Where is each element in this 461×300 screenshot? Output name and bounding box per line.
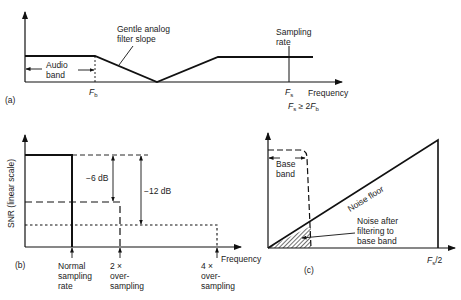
- audio-band-label-2: band: [46, 70, 65, 80]
- fb-label: Fb: [89, 87, 98, 98]
- sampling-condition: Fs ≥ 2Fb: [288, 101, 320, 112]
- audio-band-label-1: Audio: [46, 60, 68, 70]
- tick-2x-label-2: over-: [110, 271, 130, 281]
- delta-6db-label: −6 dB: [86, 173, 109, 183]
- filter-slope-label-2: filter slope: [117, 34, 156, 44]
- x-axis-label-b: Frequency: [221, 254, 262, 264]
- panel-c-tag: (c): [304, 265, 314, 275]
- noise-floor-label: Noise floor: [346, 184, 386, 214]
- panel-a-tag: (a): [5, 95, 16, 105]
- tick-normal-label-1: Normal: [58, 261, 86, 271]
- baseband-label-2: band: [276, 169, 295, 179]
- baseband-label-1: Base: [276, 159, 296, 169]
- tick-2x-label-1: 2 ×: [110, 261, 122, 271]
- sampling-rate-label-1: Sampling: [276, 27, 312, 37]
- filter-response-curve: [25, 56, 313, 82]
- tick-4x-label-2: over-: [201, 271, 221, 281]
- fs-label: Fs: [285, 87, 293, 98]
- noise-after-label-1: Noise after: [357, 216, 398, 226]
- y-axis-label-b: SNR (linear scale): [6, 159, 16, 228]
- tick-2x-label-3: sampling: [110, 281, 144, 291]
- tick-normal-label-2: sampling: [58, 271, 92, 281]
- sampling-rate-label-2: rate: [276, 37, 291, 47]
- tick-4x-label-3: sampling: [201, 281, 235, 291]
- panel-c: Base band Noise floor Noise after filter…: [268, 133, 455, 275]
- filter-slope-leader: [119, 46, 133, 65]
- fs-half-label: Fs/2: [427, 255, 443, 266]
- noise-after-label-3: base band: [357, 236, 397, 246]
- tick-normal-label-3: rate: [58, 281, 73, 291]
- tick-4x-label-1: 4 ×: [201, 261, 213, 271]
- delta-12db-label: −12 dB: [144, 186, 172, 196]
- x-axis-label-a: Frequency: [308, 88, 349, 98]
- panel-b-tag: (b): [15, 260, 26, 270]
- snr-normal: [25, 155, 72, 247]
- panel-a: Audio band Gentle analog filter slope Sa…: [5, 12, 349, 112]
- noise-floor: [268, 140, 438, 248]
- filter-slope-label-1: Gentle analog: [117, 24, 170, 34]
- snr-4x: [25, 225, 217, 247]
- panel-b: SNR (linear scale) −6 dB −12 dB Normal s…: [6, 135, 262, 291]
- oversampling-diagram: Audio band Gentle analog filter slope Sa…: [0, 0, 461, 300]
- noise-after-label-2: filtering to: [357, 226, 394, 236]
